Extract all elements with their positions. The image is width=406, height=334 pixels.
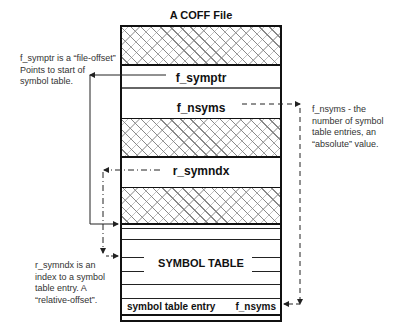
f-nsyms-dashed-arrow <box>242 104 300 304</box>
connector-arrows <box>0 0 406 334</box>
f-symptr-pointer-arrow <box>90 75 166 224</box>
r-symndx-dashed-arrow <box>103 170 160 256</box>
